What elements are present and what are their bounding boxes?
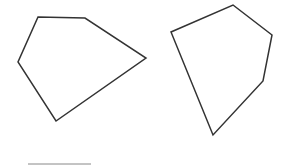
left-pentagon bbox=[18, 17, 146, 121]
right-pentagon bbox=[171, 5, 272, 135]
diagram-canvas bbox=[0, 0, 288, 167]
